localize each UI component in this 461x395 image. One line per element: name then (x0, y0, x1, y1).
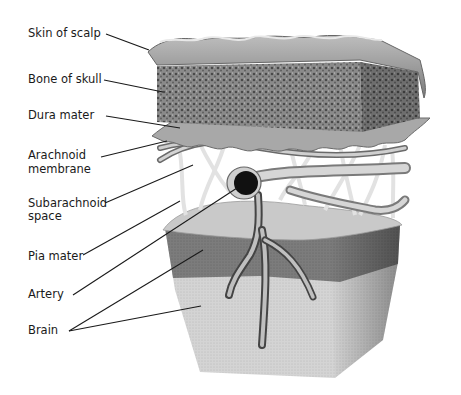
meninges-diagram: Skin of scalp Bone of skull Dura mater A… (0, 0, 461, 395)
label-pia-mater: Pia mater (28, 250, 83, 263)
artery-cross-section (227, 167, 261, 199)
leader-arachnoid (101, 141, 167, 157)
leader-bone (104, 80, 163, 92)
label-skin-of-scalp: Skin of scalp (28, 27, 101, 40)
label-artery: Artery (28, 288, 64, 301)
leader-skin (106, 34, 149, 50)
label-bone-of-skull: Bone of skull (28, 73, 102, 86)
label-brain: Brain (28, 324, 58, 337)
label-subarachnoid-space-line2: space (28, 210, 62, 223)
label-dura-mater: Dura mater (28, 109, 94, 122)
leader-subarachnoid (105, 165, 193, 203)
label-arachnoid-membrane-line2: membrane (28, 163, 91, 176)
label-arachnoid-membrane-line1: Arachnoid (28, 149, 86, 162)
bone-of-skull (157, 62, 420, 132)
